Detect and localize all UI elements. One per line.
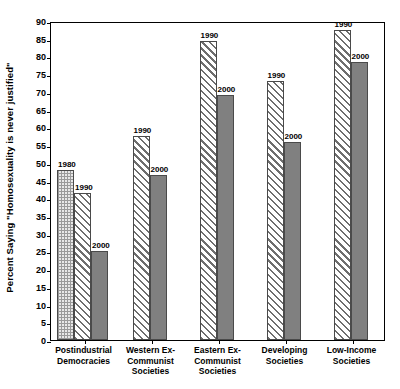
x-tick-mark	[85, 340, 86, 344]
bar-group: 19902000	[51, 23, 386, 340]
x-category-label-line: Societies	[184, 366, 251, 377]
y-tick-label-25: 25	[20, 252, 46, 253]
y-tick-label-85: 85	[20, 40, 46, 41]
y-tick-label-40: 40	[20, 199, 46, 200]
x-category-label-line: Societies	[318, 356, 385, 367]
y-axis-title: Percent Saying "Homosexuality is never j…	[0, 0, 18, 355]
x-category-label-line: Democracies	[50, 356, 117, 367]
y-axis-title-text: Percent Saying "Homosexuality is never j…	[4, 62, 15, 292]
y-tick-label-65: 65	[20, 111, 46, 112]
x-category-label-2: Eastern Ex-CommunistSocieties	[184, 345, 251, 377]
bar-1990[interactable]	[334, 30, 351, 340]
y-tick-label-90: 90	[20, 22, 46, 23]
x-category-label-line: Communist	[184, 356, 251, 367]
y-tick-mark	[47, 342, 51, 343]
y-tick-label-30: 30	[20, 235, 46, 236]
x-category-label-line: Societies	[251, 356, 318, 367]
x-category-label-line: Low-Income	[318, 345, 385, 356]
bar-value-label-1990: 1990	[335, 20, 353, 29]
x-tick-mark	[152, 340, 153, 344]
x-category-label-0: PostindustrialDemocracies	[50, 345, 117, 366]
y-tick-label-45: 45	[20, 182, 46, 183]
y-tick-label-20: 20	[20, 270, 46, 271]
y-tick-label-75: 75	[20, 75, 46, 76]
y-tick-label-5: 5	[20, 323, 46, 324]
x-category-label-line: Eastern Ex-	[184, 345, 251, 356]
y-tick-label-55: 55	[20, 146, 46, 147]
x-category-label-line: Developing	[251, 345, 318, 356]
x-category-label-line: Societies	[117, 366, 184, 377]
y-tick-label-80: 80	[20, 57, 46, 58]
x-tick-mark	[353, 340, 354, 344]
y-tick-label-0: 0	[20, 341, 46, 342]
x-tick-mark	[219, 340, 220, 344]
x-category-label-1: Western Ex-CommunistSocieties	[117, 345, 184, 377]
bar-value-label-2000: 2000	[352, 52, 370, 61]
y-tick-label-60: 60	[20, 128, 46, 129]
y-tick-label-15: 15	[20, 288, 46, 289]
plot-area: 1980199020001990200019902000199020001990…	[50, 22, 385, 341]
bar-chart: Percent Saying "Homosexuality is never j…	[0, 0, 400, 389]
plot-inner: 1980199020001990200019902000199020001990…	[51, 23, 384, 340]
y-tick-label-10: 10	[20, 306, 46, 307]
x-category-label-line: Communist	[117, 356, 184, 367]
x-category-label-3: DevelopingSocieties	[251, 345, 318, 366]
x-category-label-line: Postindustrial	[50, 345, 117, 356]
x-tick-mark	[286, 340, 287, 344]
x-category-label-line: Western Ex-	[117, 345, 184, 356]
y-tick-label-70: 70	[20, 93, 46, 94]
x-category-label-4: Low-IncomeSocieties	[318, 345, 385, 366]
y-tick-label-35: 35	[20, 217, 46, 218]
y-tick-label-50: 50	[20, 164, 46, 165]
bar-2000[interactable]	[351, 62, 368, 340]
